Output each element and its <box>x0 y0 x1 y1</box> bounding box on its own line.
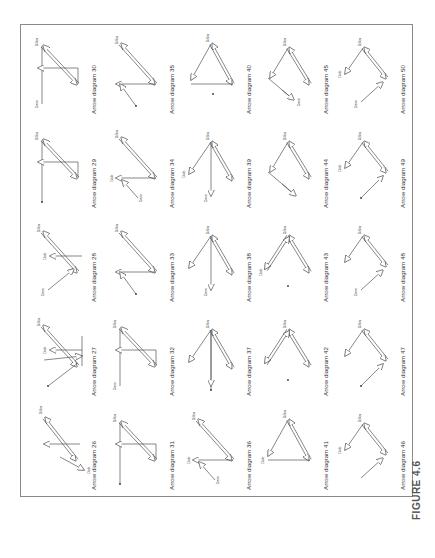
diagram-graph: Dillon <box>265 320 311 381</box>
arrow-diagram-37: Arrow diagram 37Dillon <box>189 320 252 396</box>
arrow-diagram-43: Arrow diagram 43DillonDale <box>259 226 329 302</box>
arrow-diagram-40: Arrow diagram 40Dillon <box>191 34 252 114</box>
arrow-diagram-33: Arrow diagram 33Dillon <box>115 224 175 302</box>
node-label-hub: Dillon <box>283 132 287 141</box>
node-label-hub: Dillon <box>283 320 287 329</box>
node-label-hub: Dillon <box>37 224 41 233</box>
figure-caption: FIGURE 4.6 <box>411 461 422 520</box>
diagram-label: Arrow diagram 30 <box>90 65 97 114</box>
node-label-hub: Dillon <box>35 38 39 47</box>
arrow-diagram-29: Arrow diagram 29Dillon <box>35 132 97 208</box>
diagram-graph: DillonDave <box>189 226 234 296</box>
diagram-label: Arrow diagram 32 <box>168 347 175 396</box>
diagram-label: Arrow diagram 31 <box>168 441 175 490</box>
node-label-hub: Dillon <box>283 226 287 235</box>
node-label-branch: Dale <box>338 164 342 171</box>
diagram-graph: Dillon <box>35 132 79 203</box>
diagram-label: Arrow diagram 42 <box>322 347 329 396</box>
diagram-label: Arrow diagram 47 <box>399 347 406 396</box>
node-label-tail: Dave <box>41 288 45 296</box>
diagram-label: Arrow diagram 28 <box>90 253 97 302</box>
node-label-branch: Dale <box>338 70 342 77</box>
node-label-hub: Dillon <box>192 412 196 421</box>
arrow-diagram-41: Arrow diagram 41DillonDale <box>261 410 329 490</box>
node-label-branch: Dale <box>261 456 265 463</box>
node-label-hub: Dillon <box>358 132 362 141</box>
node-label-tail: Dave <box>113 382 117 390</box>
node-label-hub: Dillon <box>206 226 210 235</box>
diagram-graph: DillonDale <box>259 226 311 287</box>
diagram-graph: DillonDaveDale <box>187 412 234 484</box>
diagram-label: Arrow diagram 48 <box>399 253 406 302</box>
node-label-tail: Dave <box>354 288 358 296</box>
node-label-hub: Dillon <box>115 36 119 45</box>
node-label-tail: Dave <box>297 98 301 106</box>
diagram-label: Arrow diagram 44 <box>322 159 329 208</box>
node-label-branch: Dale <box>187 456 191 463</box>
diagram-graph: DillonDave <box>35 38 79 108</box>
diagram-graph: DillonDale <box>261 410 311 464</box>
diagram-graph: Dillon <box>189 320 234 391</box>
diagram-graph: DillonDave <box>345 226 388 296</box>
diagram-graph: DillonDale <box>338 414 388 478</box>
node-label-hub: Dillon <box>35 132 39 141</box>
arrow-diagram-45: Arrow diagram 45DillonDave <box>268 38 329 114</box>
diagram-graph: DillonDaveDale <box>338 38 388 108</box>
node-label-branch: Dale <box>43 252 47 259</box>
diagram-graph: DillonDaveDale <box>182 132 234 202</box>
arrow-diagram-49: Arrow diagram 49DillonDale <box>338 132 406 208</box>
node-label-hub: Dillon <box>358 414 362 423</box>
arrow-diagram-38: Arrow diagram 38DillonDave <box>189 226 252 302</box>
diagram-label: Arrow diagram 33 <box>168 253 175 302</box>
diagram-label: Arrow diagram 46 <box>399 441 406 490</box>
arrow-diagram-28: Arrow diagram 28DillonDaleDave <box>37 224 97 302</box>
node-label-branch: Dale <box>110 174 114 181</box>
diagram-label: Arrow diagram 41 <box>322 441 329 490</box>
node-label-hub: Dillon <box>206 320 210 329</box>
node-label-branch: Dale <box>338 446 342 453</box>
arrow-diagram-26: Arrow diagram 26DillonDale <box>39 406 97 490</box>
diagram-label: Arrow diagram 39 <box>245 159 252 208</box>
arrow-diagram-47: Arrow diagram 47Dillon <box>345 320 406 396</box>
arrow-diagram-42: Arrow diagram 42Dillon <box>265 320 329 396</box>
diagram-graph: DillonDale <box>37 318 82 387</box>
arrow-diagram-27: Arrow diagram 27DillonDale <box>37 318 97 396</box>
arrow-diagram-31: Arrow diagram 31Dillon <box>113 414 175 490</box>
arrow-diagram-36: Arrow diagram 36DillonDaveDale <box>187 412 252 490</box>
diagram-graph: Dillon <box>345 320 388 387</box>
diagram-label: Arrow diagram 26 <box>90 441 97 490</box>
diagram-graph: Dillon <box>115 36 157 107</box>
node-label-branch: Dale <box>87 466 91 473</box>
diagram-graph: DillonDave <box>268 38 311 106</box>
diagram-label: Arrow diagram 49 <box>399 159 406 208</box>
node-label-hub: Dillon <box>283 38 287 47</box>
diagram-label: Arrow diagram 50 <box>399 65 406 114</box>
node-label-tail: Dave <box>204 194 208 202</box>
node-label-hub: Dillon <box>115 224 119 233</box>
node-label-hub: Dillon <box>358 226 362 235</box>
diagram-label: Arrow diagram 29 <box>90 159 97 208</box>
node-label-tail: Dave <box>35 100 39 108</box>
node-label-hub: Dillon <box>113 414 117 423</box>
diagram-label: Arrow diagram 37 <box>245 347 252 396</box>
node-label-branch: Dale <box>259 268 263 275</box>
node-label-hub: Dillon <box>206 132 210 141</box>
arrow-diagram-48: Arrow diagram 48DillonDave <box>345 226 406 302</box>
diagram-graph: DillonDale <box>338 132 388 199</box>
diagram-graph: DillonDave <box>113 320 157 390</box>
arrow-diagram-50: Arrow diagram 50DillonDaveDale <box>338 38 406 114</box>
node-label-hub: Dillon <box>358 38 362 47</box>
node-label-branch: Dale <box>43 346 47 353</box>
arrow-diagram-grid: Arrow diagram 26DillonDaleArrow diagram … <box>0 0 435 558</box>
arrow-diagram-39: Arrow diagram 39DillonDaveDale <box>182 132 252 208</box>
diagram-label: Arrow diagram 35 <box>168 65 175 114</box>
node-label-hub: Dillon <box>206 34 210 43</box>
node-label-tail: Dave <box>354 100 358 108</box>
node-label-hub: Dillon <box>39 406 43 415</box>
node-label-branch: Dale <box>182 170 186 177</box>
diagram-graph: DillonDaveDale <box>110 130 157 202</box>
diagram-graph: Dillon <box>115 224 157 295</box>
node-label-hub: Dillon <box>115 130 119 139</box>
arrow-diagram-44: Arrow diagram 44Dillon <box>268 132 329 208</box>
diagram-label: Arrow diagram 43 <box>322 253 329 302</box>
